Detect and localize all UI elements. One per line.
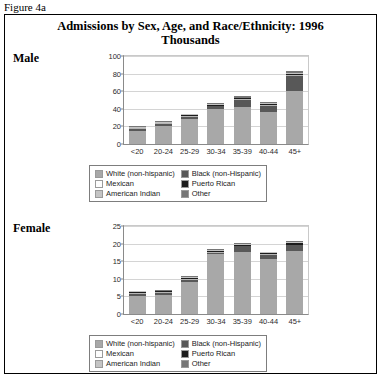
bar-slot: 20-24 [150,226,176,314]
legend-item[interactable]: American Indian [95,359,175,368]
legend-swatch-icon [181,190,189,198]
y-axis-tick-label: 20 [113,239,121,248]
legend-label: Other [192,359,211,368]
bar-group-male: <2020-2425-2930-3435-3940-4445+ [124,56,308,144]
plot-area-male: 020406080100<2020-2425-2930-3435-3940-44… [123,55,309,145]
x-axis-tick-label: 45+ [288,317,301,326]
bar-segment [286,91,303,144]
bar-segment [207,254,224,314]
y-axis-tick-label: 25 [113,222,121,231]
y-axis-tick-label: 60 [113,87,121,96]
legend-swatch-icon [181,340,189,348]
legend-item[interactable]: White (non-hispanic) [95,339,175,348]
bar-slot: 25-29 [177,56,203,144]
legend-swatch-icon [95,190,103,198]
legend-label: Black (non-Hispanic) [192,339,261,348]
x-axis-tick-label: 20-24 [154,317,173,326]
bar-segment [155,295,172,314]
stacked-bar[interactable] [155,121,172,144]
legend-label: Puerto Rican [192,349,235,358]
legend-label: American Indian [106,189,160,198]
x-axis-tick-label: <20 [131,317,144,326]
stacked-bar[interactable] [260,102,277,144]
bar-segment [207,109,224,144]
bar-segment [129,131,146,144]
legend-swatch-icon [181,180,189,188]
legend-item[interactable]: Mexican [95,349,175,358]
stacked-bar[interactable] [181,114,198,144]
bar-slot: 20-24 [150,56,176,144]
y-axis-tick-label: 0 [117,140,121,149]
legend-label: Puerto Rican [192,179,235,188]
bar-slot: 35-39 [229,56,255,144]
bar-segment [155,126,172,144]
plot-area-female: 0510152025<2020-2425-2930-3435-3940-4445… [123,225,309,315]
legend-item[interactable]: Puerto Rican [181,349,261,358]
stacked-bar[interactable] [207,103,224,144]
bar-segment [234,107,251,144]
panel-label-male: Male [13,51,39,66]
legend-label: Other [192,189,211,198]
legend-item[interactable]: Black (non-Hispanic) [181,339,261,348]
figure-title-line2: Thousands [23,33,358,47]
x-axis-tick-label: 20-24 [154,147,173,156]
stacked-bar[interactable] [234,96,251,144]
bar-group-female: <2020-2425-2930-3435-3940-4445+ [124,226,308,314]
bar-segment [181,282,198,314]
legend-swatch-icon [95,340,103,348]
legend-swatch-icon [95,350,103,358]
bar-slot: 45+ [282,56,308,144]
legend-label: American Indian [106,359,160,368]
chart-legend-male: White (non-hispanic)Black (non-Hispanic)… [89,165,267,202]
x-axis-tick-label: 25-29 [180,147,199,156]
legend-label: Mexican [106,349,134,358]
figure-title: Admissions by Sex, Age, and Race/Ethnici… [5,15,376,47]
legend-swatch-icon [95,170,103,178]
x-axis-tick-label: 35-39 [233,147,252,156]
stacked-bar[interactable] [129,126,146,144]
y-axis-tick-label: 15 [113,257,121,266]
bar-segment [286,251,303,314]
stacked-bar[interactable] [155,290,172,314]
legend-item[interactable]: Other [181,189,261,198]
stacked-bar[interactable] [234,243,251,314]
figure-caption: Figure 4a [0,0,380,14]
bar-segment [260,112,277,144]
panel-label-female: Female [13,221,50,236]
bar-segment [260,259,277,314]
legend-label: Mexican [106,179,134,188]
x-axis-tick-label: 30-34 [206,317,225,326]
legend-swatch-icon [181,360,189,368]
x-axis-tick-label: 45+ [288,147,301,156]
x-axis-tick-label: 30-34 [206,147,225,156]
stacked-bar[interactable] [181,276,198,314]
bar-slot: <20 [124,226,150,314]
figure-box: Admissions by Sex, Age, and Race/Ethnici… [4,14,377,374]
legend-item[interactable]: White (non-hispanic) [95,169,175,178]
legend-item[interactable]: Other [181,359,261,368]
stacked-bar[interactable] [129,291,146,314]
bar-segment [181,119,198,144]
stacked-bar[interactable] [260,252,277,314]
legend-item[interactable]: Mexican [95,179,175,188]
y-axis-tick-label: 100 [108,52,121,61]
x-axis-tick-label: 35-39 [233,317,252,326]
legend-label: Black (non-Hispanic) [192,169,261,178]
bar-segment [234,252,251,314]
y-axis-tick-label: 5 [117,292,121,301]
legend-swatch-icon [95,360,103,368]
legend-label: White (non-hispanic) [106,169,175,178]
chart-legend-female: White (non-hispanic)Black (non-Hispanic)… [89,335,267,372]
bar-segment [286,76,303,91]
stacked-bar[interactable] [207,249,224,314]
stacked-bar[interactable] [286,241,303,314]
figure-title-line1: Admissions by Sex, Age, and Race/Ethnici… [23,19,358,33]
stacked-bar[interactable] [286,71,303,144]
y-axis-tick-label: 80 [113,69,121,78]
legend-item[interactable]: American Indian [95,189,175,198]
legend-swatch-icon [181,350,189,358]
bar-slot: 40-44 [255,56,281,144]
legend-item[interactable]: Puerto Rican [181,179,261,188]
panel-male: Male 020406080100<2020-2425-2930-3435-39… [5,47,376,217]
legend-item[interactable]: Black (non-Hispanic) [181,169,261,178]
